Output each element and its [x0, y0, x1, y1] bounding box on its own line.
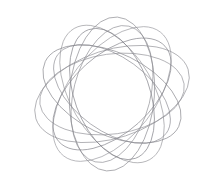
spirograph-rosette-figure: [0, 0, 223, 188]
artwork-canvas: [0, 0, 223, 188]
